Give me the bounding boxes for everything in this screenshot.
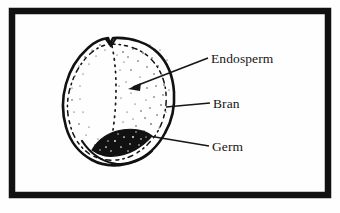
grain-diagram-svg <box>0 0 340 213</box>
label-germ: Germ <box>212 140 243 154</box>
label-endosperm: Endosperm <box>211 52 273 66</box>
label-bran: Bran <box>213 97 240 111</box>
grain-illustration <box>63 38 174 165</box>
figure-container: Endosperm Bran Germ <box>0 0 340 213</box>
